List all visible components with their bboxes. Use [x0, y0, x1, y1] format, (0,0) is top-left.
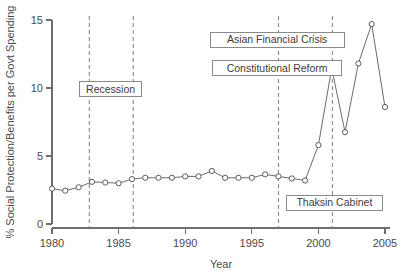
data-point-marker [196, 174, 201, 179]
y-tick-label: 10 [31, 82, 43, 94]
annotation-constitutional-reform: Constitutional Reform [213, 61, 342, 76]
data-point-marker [382, 104, 387, 109]
x-tick-label: 2000 [306, 237, 330, 249]
data-point-marker [316, 143, 321, 148]
annotation-recession: Recession [80, 82, 142, 97]
data-point-marker [169, 175, 174, 180]
annotation-thaksin-cabinet: Thaksin Cabinet [287, 195, 382, 210]
data-point-marker [369, 21, 374, 26]
data-point-marker [223, 175, 228, 180]
data-point-marker [116, 181, 121, 186]
data-point-marker [89, 179, 94, 184]
data-point-marker [143, 175, 148, 180]
y-tick-label: 15 [31, 14, 43, 26]
x-axis-title: Year [210, 258, 233, 270]
data-point-marker [249, 175, 254, 180]
annotation-label: Asian Financial Crisis [227, 33, 327, 45]
annotation-label: Constitutional Reform [227, 62, 328, 74]
data-point-marker [289, 176, 294, 181]
data-point-marker [49, 186, 54, 191]
x-tick-label: 1990 [173, 237, 197, 249]
y-tick-label: 5 [37, 150, 43, 162]
data-point-marker [356, 61, 361, 66]
data-point-marker [276, 174, 281, 179]
data-point-marker [236, 175, 241, 180]
annotation-asian-financial-crisis: Asian Financial Crisis [210, 32, 344, 47]
y-axis-title: % Social Protection/Benefits per Govt Sp… [4, 6, 16, 239]
x-tick-label: 1980 [40, 237, 64, 249]
series-line [52, 24, 385, 191]
x-tick-label: 2005 [373, 237, 397, 249]
y-tick-label: 0 [37, 218, 43, 230]
y-ticks-group: 051015 [31, 14, 52, 230]
data-point-marker [63, 188, 68, 193]
x-tick-label: 1995 [240, 237, 264, 249]
line-chart: 051015 198019851990199520002005 Recessio… [0, 0, 405, 277]
x-ticks-group: 198019851990199520002005 [40, 228, 397, 249]
data-point-marker [263, 172, 268, 177]
data-point-marker [156, 175, 161, 180]
data-point-marker [76, 185, 81, 190]
data-point-marker [302, 178, 307, 183]
data-point-marker [103, 180, 108, 185]
data-point-marker [129, 177, 134, 182]
annotation-label: Recession [86, 83, 135, 95]
data-point-marker [183, 174, 188, 179]
data-point-marker [209, 168, 214, 173]
annotation-label: Thaksin Cabinet [296, 196, 372, 208]
x-tick-label: 1985 [106, 237, 130, 249]
annotations-group: RecessionAsian Financial CrisisConstitut… [80, 32, 382, 210]
chart-container: 051015 198019851990199520002005 Recessio… [0, 0, 405, 277]
data-point-marker [342, 130, 347, 135]
